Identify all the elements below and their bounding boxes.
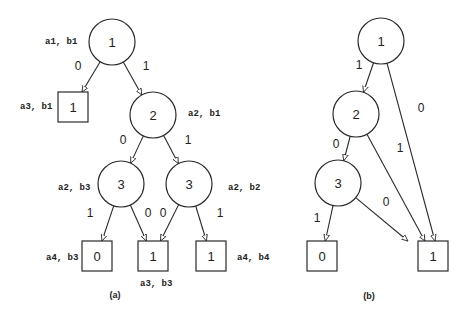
decision-node-a_n1: 1a1, b1 bbox=[45, 19, 135, 65]
node-annotation: a4, b4 bbox=[237, 253, 270, 263]
caption-a: (a) bbox=[110, 290, 121, 300]
node-label: 1 bbox=[69, 100, 76, 115]
node-label: 3 bbox=[334, 176, 341, 191]
node-label: 2 bbox=[149, 108, 156, 123]
terminal-node-b_t1: 1 bbox=[418, 241, 448, 271]
terminal-node-a_t1r: 1a4, b4 bbox=[196, 241, 270, 271]
terminal-node-a_t1: 1a3, b1 bbox=[20, 92, 88, 122]
node-annotation: a2, b3 bbox=[58, 183, 90, 193]
edge-label: 0 bbox=[120, 133, 127, 147]
terminal-node-b_t0: 0 bbox=[307, 241, 337, 271]
node-label: 1 bbox=[108, 35, 115, 50]
edge-label: 0 bbox=[145, 206, 152, 220]
caption-b: (b) bbox=[363, 291, 375, 301]
decision-node-b_n2: 2 bbox=[333, 91, 379, 137]
terminal-node-a_t1m: 1a3, b3 bbox=[138, 241, 172, 289]
decision-node-a_n2: 2a2, b1 bbox=[130, 92, 221, 138]
nodes-b: 12301 bbox=[307, 18, 448, 271]
node-annotation: a2, b2 bbox=[228, 183, 260, 193]
edge-label: 1 bbox=[217, 206, 224, 220]
bdd-diagram-canvas: 01011001 1a1, b11a3, b12a2, b13a2, b33a2… bbox=[0, 0, 469, 314]
decision-node-b_n3: 3 bbox=[315, 160, 361, 206]
node-label: 1 bbox=[207, 249, 214, 264]
node-label: 2 bbox=[352, 107, 359, 122]
decision-node-a_n3l: 3a2, b3 bbox=[58, 161, 144, 207]
node-label: 1 bbox=[429, 249, 436, 264]
node-label: 0 bbox=[318, 249, 325, 264]
node-label: 0 bbox=[93, 249, 100, 264]
node-annotation: a3, b3 bbox=[140, 279, 172, 289]
edge-label: 0 bbox=[333, 137, 340, 151]
edge-a_n2-to-a_n3l bbox=[131, 136, 144, 163]
edge-b_n3-to-b_t0 bbox=[325, 205, 333, 241]
edges-b: 100110 bbox=[314, 58, 435, 241]
edge-label: 1 bbox=[314, 211, 321, 225]
node-annotation: a1, b1 bbox=[45, 37, 78, 47]
node-label: 3 bbox=[185, 177, 192, 192]
node-annotation: a4, b3 bbox=[46, 253, 78, 263]
node-label: 1 bbox=[149, 249, 156, 264]
edge-label: 1 bbox=[397, 141, 404, 155]
edge-label: 1 bbox=[87, 206, 94, 220]
node-annotation: a3, b1 bbox=[20, 102, 53, 112]
edge-a_n3l-to-a_t0 bbox=[102, 206, 114, 241]
edge-label: 0 bbox=[75, 59, 82, 73]
edge-a_n2-to-a_n3r bbox=[164, 135, 179, 163]
node-label: 3 bbox=[117, 177, 124, 192]
edge-a_n1-to-a_n2 bbox=[123, 62, 141, 95]
terminal-node-a_t0: 0a4, b3 bbox=[46, 241, 112, 271]
node-label: 1 bbox=[377, 34, 384, 49]
edge-b_n1-to-b_n2 bbox=[363, 63, 373, 92]
edge-b_n2-to-b_n3 bbox=[344, 136, 350, 160]
decision-node-a_n3r: 3a2, b2 bbox=[166, 161, 260, 207]
edge-label: 1 bbox=[356, 58, 363, 72]
diagram-b: 100110 12301 (b) bbox=[307, 18, 448, 301]
decision-node-b_n1: 1 bbox=[358, 18, 404, 64]
edge-a_n3r-to-a_t1r bbox=[196, 206, 207, 241]
edge-a_n1-to-a_t1 bbox=[82, 62, 100, 92]
edges-a: 01011001 bbox=[75, 59, 224, 241]
edge-label: 0 bbox=[418, 101, 425, 115]
edge-label: 0 bbox=[160, 206, 167, 220]
edge-label: 1 bbox=[143, 59, 150, 73]
edge-label: 1 bbox=[185, 133, 192, 147]
edge-label: 0 bbox=[383, 195, 390, 209]
diagram-a: 01011001 1a1, b11a3, b12a2, b13a2, b33a2… bbox=[20, 19, 270, 300]
node-annotation: a2, b1 bbox=[188, 109, 221, 119]
